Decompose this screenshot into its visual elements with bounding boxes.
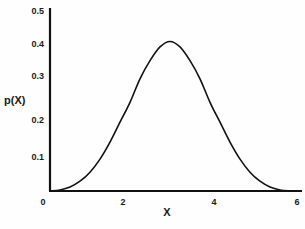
- x-tick-label: 2: [120, 197, 125, 207]
- chart: 0246 0.10.20.30.40.5 p(X) X: [0, 0, 305, 229]
- density-curve: [50, 41, 290, 191]
- y-tick-label: 0.4: [31, 39, 44, 49]
- y-tick-label: 0.2: [31, 115, 44, 125]
- x-tick-label: 4: [211, 197, 216, 207]
- chart-canvas: 0246 0.10.20.30.40.5 p(X) X: [0, 0, 305, 229]
- x-tick-label: 0: [40, 197, 45, 207]
- x-axis-label: X: [163, 206, 171, 218]
- y-tick-label: 0.3: [31, 71, 44, 81]
- y-tick-label: 0.1: [31, 152, 44, 162]
- y-tick-label: 0.5: [31, 6, 44, 16]
- x-tick-label: 6: [294, 197, 299, 207]
- y-tick-labels: 0.10.20.30.40.5: [31, 6, 44, 162]
- y-axis-label: p(X): [4, 94, 26, 106]
- density-curve-path: [50, 41, 290, 191]
